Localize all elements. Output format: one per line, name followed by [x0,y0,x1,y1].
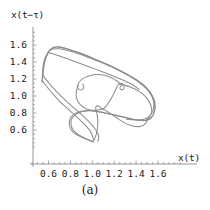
trajectory-curve [42,49,154,120]
x-tick-label: 1.4 [124,168,148,179]
y-axis-label: x(t−τ) [11,9,44,20]
y-tick-label: 1.6 [3,39,27,50]
y-tick-label: 1.4 [3,56,27,67]
x-tick-label: 0.6 [37,168,61,179]
y-tick-label: 0.8 [3,107,27,118]
x-tick-label: 0.8 [58,168,82,179]
y-tick-label: 1.0 [3,90,27,101]
x-tick-label: 1.6 [146,168,170,179]
y-tick-label: 1.2 [3,73,27,84]
figure-container: x(t−τ) x(t) 0.60.81.01.21.41.60.60.81.01… [0,0,210,210]
y-tick-label: 0.6 [3,124,27,135]
figure-caption: (a) [0,183,180,197]
x-tick-label: 1.0 [80,168,104,179]
x-tick-label: 1.2 [102,168,126,179]
x-axis-label: x(t) [178,152,200,163]
trajectory-curve [78,75,124,110]
trajectory-curves [42,47,155,142]
